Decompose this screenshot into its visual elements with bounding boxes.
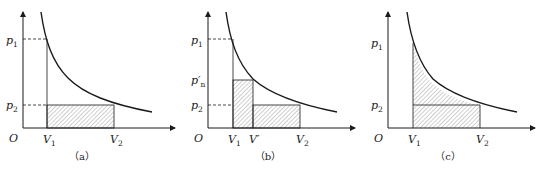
pv-diagram-figure: p1 p2 O V1 V2 （a） p1 p′n p2 O V1 V′ V2 （… [0,0,540,171]
origin-label: O [9,132,18,145]
caption-a: （a） [69,151,95,162]
panel-c: p1 p2 O V1 V2 （c） [371,12,535,162]
label-v1: V1 [228,133,241,148]
label-v2: V2 [476,133,489,148]
label-p2: p2 [6,99,18,114]
origin-label: O [374,132,383,145]
label-p1: p1 [371,37,383,52]
label-v2: V2 [296,133,309,148]
panel-b: p1 p′n p2 O V1 V′ V2 （b） [191,12,355,162]
label-p1: p1 [191,34,203,49]
isotherm-curve [41,12,152,112]
label-v2: V2 [110,133,123,148]
label-p1: p1 [6,34,18,49]
work-step2-rect [253,105,300,128]
label-p2: p2 [191,99,203,114]
panel-a: p1 p2 O V1 V2 （a） [6,12,175,162]
label-vprime: V′ [249,133,260,146]
work-area-under-curve [413,43,480,128]
label-v1: V1 [408,133,421,148]
label-v1: V1 [43,133,56,148]
caption-c: （c） [435,151,461,162]
caption-b: （b） [255,151,281,162]
label-p2: p2 [371,99,383,114]
work-step1-rect [233,80,253,128]
label-pn: p′n [191,74,206,89]
work-area-rect [47,105,114,128]
origin-label: O [194,132,203,145]
